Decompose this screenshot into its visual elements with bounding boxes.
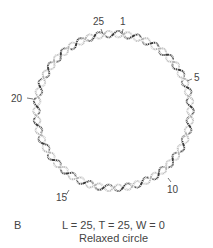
relaxed-circle-dna-diagram (0, 0, 213, 248)
marker-tick (168, 178, 171, 182)
marker-tick (27, 98, 33, 99)
marker-label-15: 15 (56, 193, 67, 203)
marker-label-5: 5 (194, 73, 200, 83)
marker-label-10: 10 (167, 185, 178, 195)
marker-label-20: 20 (11, 94, 22, 104)
marker-label-25: 25 (93, 17, 104, 27)
caption-description: Relaxed circle (0, 232, 213, 244)
marker-label-1: 1 (120, 17, 126, 27)
caption-parameters: L = 25, T = 25, W = 0 (0, 219, 213, 231)
